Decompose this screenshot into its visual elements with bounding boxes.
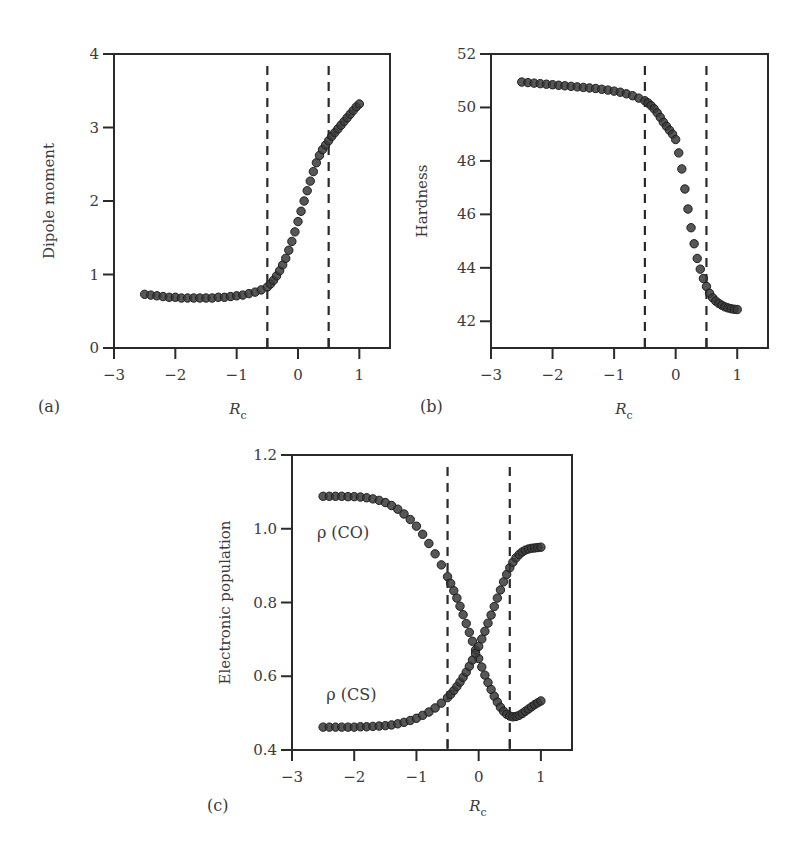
data-point xyxy=(297,207,305,215)
y-tick-label: 44 xyxy=(457,259,476,277)
data-point xyxy=(490,602,498,610)
data-point xyxy=(487,611,495,619)
data-point xyxy=(437,561,445,569)
data-point xyxy=(693,254,701,262)
data-point xyxy=(478,635,486,643)
x-axis-title: Rc xyxy=(228,400,246,422)
data-point xyxy=(418,530,426,538)
data-point xyxy=(285,246,293,254)
data-point xyxy=(291,228,299,236)
data-point xyxy=(671,135,679,143)
x-axis-title-main: R xyxy=(228,400,240,418)
x-tick-label: −2 xyxy=(541,366,563,384)
y-axis-title: Electronic population xyxy=(216,520,234,684)
data-point xyxy=(684,205,692,213)
x-tick-label: −2 xyxy=(164,366,186,384)
data-point xyxy=(303,187,311,195)
curve-annotation: ρ (CO) xyxy=(317,523,369,542)
data-point xyxy=(493,594,501,602)
data-point xyxy=(453,594,461,602)
data-point xyxy=(484,619,492,627)
panel-label: (a) xyxy=(38,397,60,416)
data-point xyxy=(696,265,704,273)
figure: −3−2−10101234Dipole momentRc(a) −3−2−101… xyxy=(0,0,802,853)
x-axis-title-subscript: c xyxy=(627,409,633,422)
x-tick-label: 0 xyxy=(474,768,484,786)
x-tick-label: 1 xyxy=(355,366,365,384)
x-axis-title-subscript: c xyxy=(481,806,487,819)
x-tick-label: −3 xyxy=(480,366,502,384)
data-point xyxy=(294,217,302,225)
x-axis-title-main: R xyxy=(468,797,480,815)
x-axis-title-subscript: c xyxy=(241,409,247,422)
data-point xyxy=(282,254,290,262)
data-point xyxy=(355,100,363,108)
data-point xyxy=(481,627,489,635)
data-point xyxy=(496,586,504,594)
data-series-0 xyxy=(140,100,363,302)
data-point xyxy=(456,602,464,610)
data-point xyxy=(681,185,689,193)
data-point xyxy=(699,274,707,282)
data-point xyxy=(425,539,433,547)
y-tick-label: 1.2 xyxy=(253,446,277,464)
y-tick-label: 0 xyxy=(89,339,99,357)
data-point xyxy=(733,305,741,313)
data-point xyxy=(465,628,473,636)
x-tick-label: 0 xyxy=(671,366,681,384)
panel-a-dipole-moment: −3−2−10101234Dipole momentRc(a) xyxy=(38,45,390,422)
data-point xyxy=(537,543,545,551)
y-tick-label: 42 xyxy=(457,312,476,330)
data-point xyxy=(412,522,420,530)
x-tick-label: −1 xyxy=(405,768,427,786)
curve-annotation: ρ (CS) xyxy=(326,685,376,704)
y-tick-label: 3 xyxy=(89,119,99,137)
y-tick-label: 52 xyxy=(457,45,476,63)
y-tick-label: 0.4 xyxy=(253,741,277,759)
x-tick-label: −3 xyxy=(281,768,303,786)
data-point xyxy=(478,663,486,671)
y-tick-label: 46 xyxy=(457,205,476,223)
x-tick-label: 1 xyxy=(732,366,742,384)
y-tick-label: 0.6 xyxy=(253,667,277,685)
panel-label: (b) xyxy=(420,397,443,416)
y-tick-label: 48 xyxy=(457,152,476,170)
data-point xyxy=(462,619,470,627)
y-tick-label: 2 xyxy=(89,192,99,210)
data-point xyxy=(406,515,414,523)
y-tick-label: 50 xyxy=(457,98,476,116)
data-point xyxy=(459,610,467,618)
data-point xyxy=(309,167,317,175)
x-axis-title-main: R xyxy=(614,400,626,418)
data-point xyxy=(687,224,695,232)
x-axis-title: Rc xyxy=(468,797,486,819)
y-axis-title: Dipole moment xyxy=(40,143,58,259)
plot-frame xyxy=(114,54,390,348)
data-point xyxy=(675,149,683,157)
data-series-0 xyxy=(518,78,742,314)
data-point xyxy=(537,697,545,705)
figure-canvas: −3−2−10101234Dipole momentRc(a) −3−2−101… xyxy=(0,0,802,853)
x-tick-label: −2 xyxy=(343,768,365,786)
data-point xyxy=(690,240,698,248)
panel-label: (c) xyxy=(207,796,228,815)
x-tick-label: 0 xyxy=(293,366,303,384)
data-point xyxy=(431,550,439,558)
x-tick-label: −3 xyxy=(103,366,125,384)
panel-c-electronic-population: −3−2−1010.40.60.81.01.2Electronic popula… xyxy=(207,446,572,819)
y-tick-label: 0.8 xyxy=(253,594,277,612)
data-point xyxy=(300,197,308,205)
data-point xyxy=(678,165,686,173)
x-tick-label: −1 xyxy=(603,366,625,384)
x-tick-label: −1 xyxy=(226,366,248,384)
panel-b-hardness: −3−2−101424446485052HardnessRc(b) xyxy=(413,45,768,422)
y-tick-label: 1.0 xyxy=(253,520,277,538)
data-point xyxy=(306,177,314,185)
x-axis-title: Rc xyxy=(614,400,632,422)
x-tick-label: 1 xyxy=(536,768,546,786)
y-tick-label: 1 xyxy=(89,266,99,284)
y-tick-label: 4 xyxy=(89,45,99,63)
y-axis-title: Hardness xyxy=(413,165,431,238)
data-point xyxy=(288,237,296,245)
